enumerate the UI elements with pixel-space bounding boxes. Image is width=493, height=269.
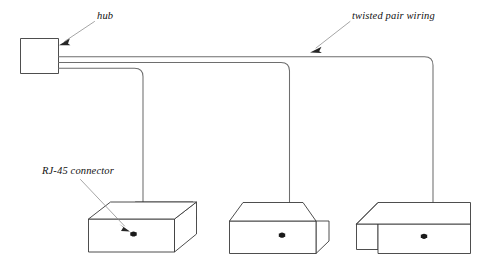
hub-body bbox=[21, 39, 59, 74]
hub-leader-line bbox=[65, 22, 95, 42]
workstation-2 bbox=[230, 203, 330, 254]
workstation-2-front-face bbox=[230, 221, 317, 254]
rj45-connector-label: RJ-45 connector bbox=[41, 165, 115, 176]
rj45-connector-1-body bbox=[130, 232, 136, 235]
twisted-pair-leader-line bbox=[316, 22, 350, 49]
diagram-canvas: hub twisted pair wiring RJ-45 connector bbox=[0, 0, 493, 269]
twisted-pair-label: twisted pair wiring bbox=[352, 10, 435, 21]
workstation-3-lid bbox=[357, 203, 471, 225]
workstation-1 bbox=[89, 202, 197, 252]
hub-leader-arrowhead bbox=[59, 39, 70, 46]
workstation-3-side-face bbox=[357, 224, 379, 250]
hub-leader bbox=[59, 22, 95, 46]
rj45-connector-2-body bbox=[279, 234, 285, 237]
twisted-pair-leader bbox=[310, 22, 350, 54]
rj45-connector-3-body bbox=[421, 235, 427, 238]
hub-node bbox=[21, 39, 59, 74]
network-diagram: hub twisted pair wiring RJ-45 connector bbox=[0, 0, 493, 269]
workstation-3 bbox=[357, 203, 471, 254]
hub-label: hub bbox=[97, 10, 113, 21]
workstation-2-lid bbox=[230, 203, 317, 222]
workstation-2-side-face bbox=[316, 221, 329, 254]
